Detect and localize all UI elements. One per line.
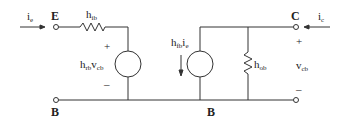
- input-current-label: ie: [27, 11, 33, 24]
- current-direction-arrow-icon: [179, 70, 183, 76]
- plus-sign-left: +: [104, 41, 110, 52]
- emitter-terminal: [54, 25, 59, 30]
- minus-sign-right: –: [296, 84, 302, 95]
- collector-terminal: [294, 25, 299, 30]
- output-current-label: ic: [318, 11, 324, 24]
- vcb-label: vcb: [296, 60, 308, 73]
- collector-label: C: [291, 10, 300, 22]
- current-source-label: hfbie: [171, 37, 189, 50]
- base-terminal-left: [54, 98, 59, 103]
- voltage-source-icon: [115, 51, 141, 77]
- hib-label: hib: [86, 9, 97, 22]
- voltage-source-label: hrbvcb: [80, 59, 103, 72]
- base-label-left: B: [51, 106, 59, 118]
- emitter-label: E: [51, 10, 59, 22]
- plus-sign-right: +: [296, 36, 302, 47]
- hob-resistor-icon: [244, 52, 252, 74]
- ic-arrowhead-icon: [304, 25, 309, 29]
- base-terminal-right: [294, 98, 299, 103]
- hib-resistor-icon: [80, 23, 105, 31]
- circuit-diagram: ie E hib + hrbvcb – B B hfbie hob C ic +…: [0, 0, 349, 123]
- base-label-mid: B: [207, 106, 215, 118]
- hob-label: hob: [254, 59, 267, 72]
- ie-arrowhead-icon: [40, 25, 45, 29]
- minus-sign-left: –: [104, 79, 110, 90]
- current-source-icon: [187, 51, 213, 77]
